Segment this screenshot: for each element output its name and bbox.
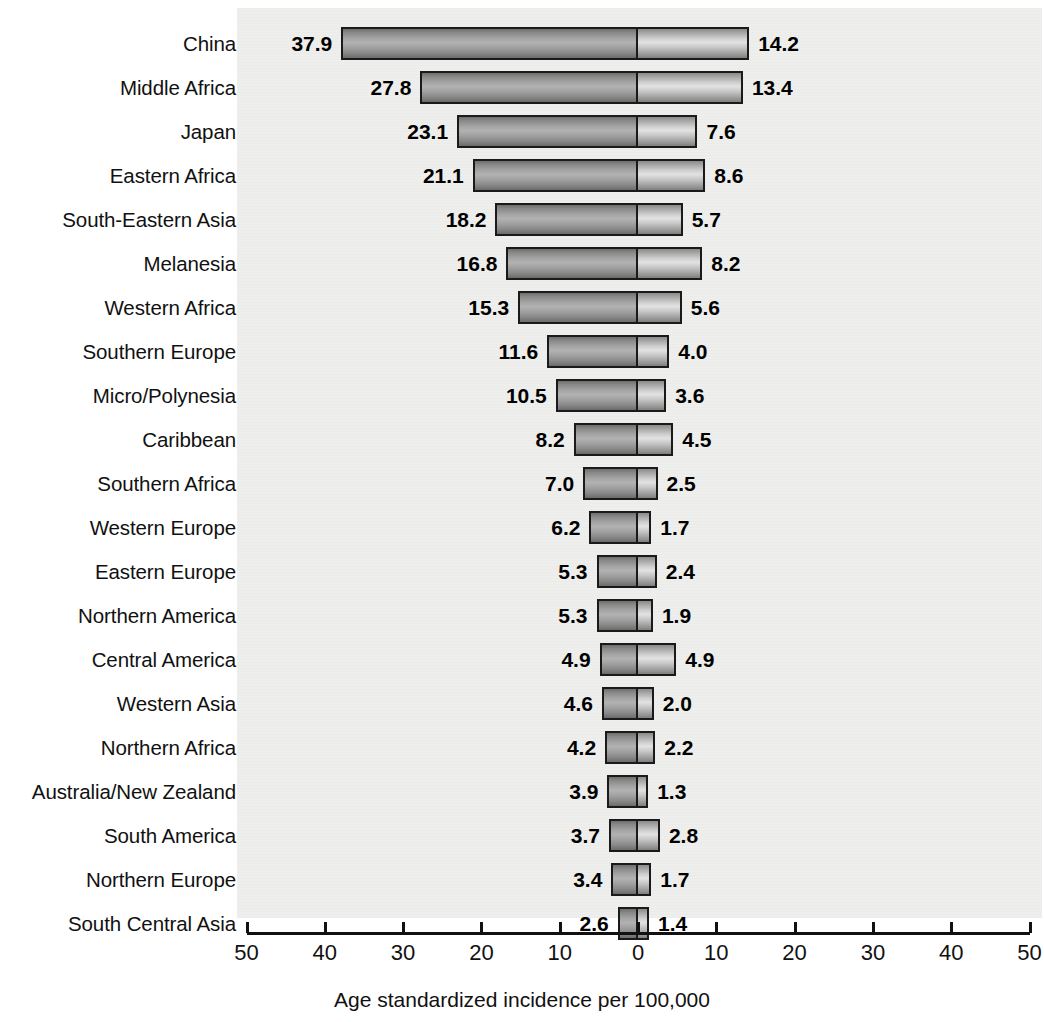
category-label: Southern Africa [97,462,236,506]
bar-row: Micro/Polynesia10.53.6 [0,374,1044,418]
diverging-bar-chart: China37.914.2Middle Africa27.813.4Japan2… [0,0,1044,1022]
x-axis: 504030201001020304050 Age standardized i… [0,932,1044,1022]
bar [600,643,677,676]
bar-row: Central America4.94.9 [0,638,1044,682]
bar [611,863,651,896]
bar [420,71,743,104]
bar-segment-left [518,291,638,324]
bar-segment-right [636,247,702,280]
bar [556,379,666,412]
bar-row: China37.914.2 [0,22,1044,66]
bar-value-left: 15.3 [468,286,509,330]
bar-segment-left [583,467,638,500]
bar-value-left: 6.2 [551,506,580,550]
axis-tick [1029,922,1032,933]
bar-row: Eastern Africa21.18.6 [0,154,1044,198]
bar-segment-right [636,467,658,500]
bar-segment-right [636,687,654,720]
bar-value-right: 5.6 [691,286,720,330]
bar-segment-right [636,555,657,588]
bar-value-left: 8.2 [536,418,565,462]
bar-row: Northern Europe3.41.7 [0,858,1044,902]
bar-value-right: 1.9 [662,594,691,638]
category-label: Western Asia [117,682,236,726]
bar-segment-left [495,203,638,236]
category-label: South-Eastern Asia [62,198,236,242]
bar-value-left: 3.9 [569,770,598,814]
category-label: Western Africa [104,286,236,330]
bar [341,27,749,60]
bar-value-left: 11.6 [498,330,538,374]
bar-segment-right [636,511,651,544]
axis-tick-label: 30 [373,940,433,966]
bar-segment-left [605,731,638,764]
bar-segment-left [506,247,638,280]
bar-segment-right [636,203,683,236]
bar-segment-left [420,71,638,104]
category-label: South America [104,814,236,858]
bar [607,775,648,808]
category-label: Southern Europe [82,330,236,374]
axis-tick [872,922,875,933]
bar-value-left: 37.9 [291,22,332,66]
bar-value-right: 2.5 [667,462,696,506]
axis-tick-label: 40 [295,940,355,966]
bar-segment-left [457,115,638,148]
bar-value-right: 1.7 [660,506,689,550]
bar-segment-left [602,687,638,720]
bar-value-left: 27.8 [370,66,411,110]
bar-row: South America3.72.8 [0,814,1044,858]
bar-segment-left [574,423,638,456]
bar-row: Caribbean8.24.5 [0,418,1044,462]
bar [457,115,697,148]
axis-tick-label: 0 [608,940,668,966]
bar-value-right: 8.2 [711,242,740,286]
category-label: Northern Africa [101,726,236,770]
bar-segment-right [636,335,669,368]
bar-segment-right [636,863,651,896]
bar-segment-left [597,555,638,588]
bar-value-left: 3.4 [573,858,602,902]
axis-tick [794,922,797,933]
category-label: Middle Africa [120,66,236,110]
bar-segment-left [611,863,638,896]
bar [574,423,673,456]
bar-value-right: 4.0 [678,330,707,374]
axis-tick [480,922,483,933]
bar-value-left: 23.1 [407,110,448,154]
bar-segment-left [473,159,638,192]
bar-value-left: 10.5 [506,374,547,418]
bar-row: Western Africa15.35.6 [0,286,1044,330]
category-label: Eastern Africa [110,154,236,198]
axis-tick-label: 20 [765,940,825,966]
bar-value-right: 14.2 [758,22,799,66]
bar-value-right: 1.7 [660,858,689,902]
category-label: Eastern Europe [95,550,236,594]
category-label: Japan [181,110,236,154]
bar-value-right: 3.6 [675,374,704,418]
bar-row: Southern Africa7.02.5 [0,462,1044,506]
bar-segment-right [636,291,682,324]
axis-tick-label: 50 [1000,940,1044,966]
bar-segment-right [636,819,660,852]
bar-segment-left [597,599,638,632]
axis-tick-label: 40 [921,940,981,966]
bar-segment-left [607,775,638,808]
axis-tick-label: 10 [686,940,746,966]
bar-segment-right [636,115,698,148]
bar [609,819,660,852]
bar-row: Melanesia16.88.2 [0,242,1044,286]
bar-segment-right [636,731,655,764]
bar-value-right: 2.4 [666,550,695,594]
bar [547,335,669,368]
bar [495,203,682,236]
bar-value-left: 4.9 [561,638,590,682]
bar-segment-right [636,159,705,192]
bar [597,555,657,588]
category-label: Western Europe [90,506,236,550]
bar-segment-right [636,643,676,676]
bar [518,291,682,324]
axis-tick [324,922,327,933]
bar-segment-right [636,423,673,456]
category-label: Australia/New Zealand [32,770,236,814]
